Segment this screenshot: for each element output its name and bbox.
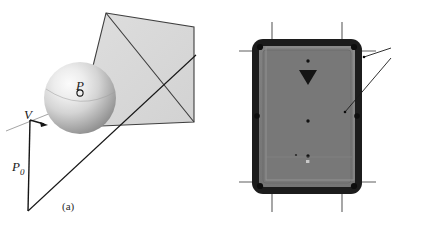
panel-a-graphic — [0, 0, 221, 233]
device-inner-panel — [263, 50, 351, 183]
sphere — [44, 62, 116, 134]
label-point-p: P — [76, 79, 84, 92]
label-vector-v: V — [24, 108, 32, 121]
interior-dot-upper — [306, 59, 309, 62]
vector-p0-shaft — [28, 120, 30, 211]
label-p0-subscript: 0 — [20, 167, 25, 177]
side-dot-right — [354, 113, 360, 119]
panel-a: P V P0 (a) — [0, 0, 221, 233]
vector-v-arrowhead — [40, 122, 48, 127]
panel-b: Real and displaced border (b) — [221, 0, 442, 233]
corner-dot-bottom-left — [257, 183, 263, 189]
figure-root: P V P0 (a) — [0, 0, 442, 233]
panel-b-graphic — [221, 0, 442, 233]
corner-dot-bottom-right — [351, 183, 357, 189]
caption-panel-a: (a) — [62, 200, 74, 212]
corner-dot-top-right — [351, 44, 357, 50]
leader-anchor-displaced — [344, 111, 347, 114]
interior-light-mark — [306, 160, 309, 163]
leader-line-real-border — [364, 48, 391, 57]
corner-dot-top-left — [257, 44, 263, 50]
interior-dot-middle — [306, 119, 309, 122]
label-p0-base: P — [12, 159, 20, 174]
side-dot-left — [254, 113, 260, 119]
interior-dot-lower-left — [295, 154, 297, 156]
label-vector-p0: P0 — [12, 160, 24, 177]
leader-anchor-real — [363, 56, 366, 59]
